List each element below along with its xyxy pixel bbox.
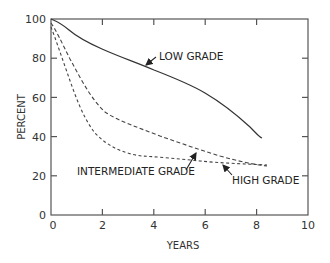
series-low-grade bbox=[51, 19, 262, 138]
y-axis-title: PERCENT bbox=[16, 93, 27, 140]
x-tick-label: 10 bbox=[301, 219, 315, 232]
y-tick-label: 20 bbox=[32, 170, 46, 183]
series-high-grade bbox=[51, 27, 267, 165]
annotation-high-grade: HIGH GRADE bbox=[232, 174, 299, 186]
x-tick-label: 8 bbox=[253, 219, 260, 232]
y-tick-label: 0 bbox=[39, 209, 46, 222]
arrow-high-grade bbox=[223, 165, 232, 175]
x-tick-label: 4 bbox=[150, 219, 157, 232]
x-tick-label: 6 bbox=[202, 219, 209, 232]
y-tick-label: 80 bbox=[32, 52, 46, 65]
y-tick-label: 60 bbox=[32, 92, 46, 105]
annotation-low-grade: LOW GRADE bbox=[159, 50, 223, 62]
x-axis-title: YEARS bbox=[166, 240, 200, 251]
series-intermediate-grade bbox=[51, 23, 267, 166]
arrow-low-grade bbox=[146, 57, 156, 65]
x-tick-label: 0 bbox=[50, 219, 57, 232]
annotation-intermediate-grade: INTERMEDIATE GRADE bbox=[77, 165, 195, 177]
chart-canvas: 0 2 4 6 8 10 0 20 40 60 80 100 YEARS PER… bbox=[0, 0, 330, 263]
y-tick-label: 100 bbox=[25, 13, 46, 26]
y-tick-label: 40 bbox=[32, 131, 46, 144]
x-tick-label: 2 bbox=[99, 219, 106, 232]
y-ticks bbox=[51, 58, 308, 176]
